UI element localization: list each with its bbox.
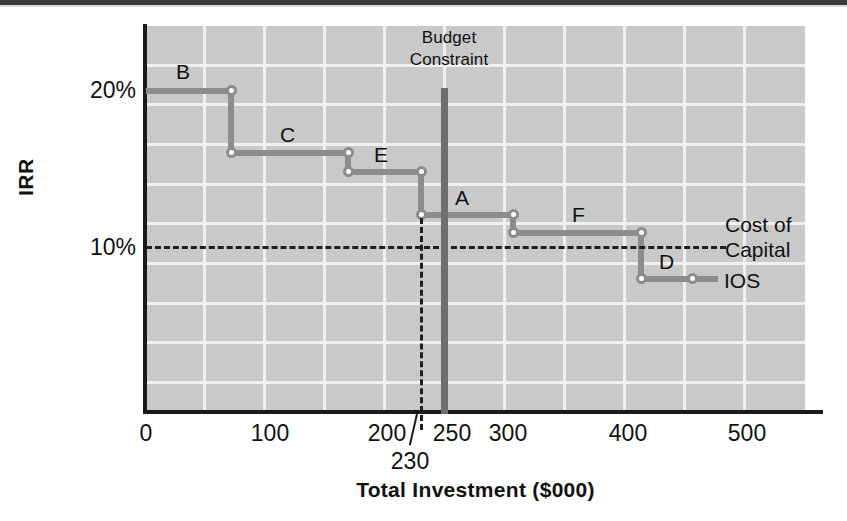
ios-step-segment-f xyxy=(510,230,644,236)
gridline-vertical xyxy=(263,26,266,412)
data-point-marker-d-start xyxy=(636,273,647,284)
x-tick-label-250: 250 xyxy=(422,420,482,447)
y-tick-label-20: 20% xyxy=(90,77,136,104)
budget-constraint-label-line2: Constraint xyxy=(385,49,513,71)
ios-step-segment-a xyxy=(418,212,516,218)
budget-230-dashed-line xyxy=(420,218,423,430)
ios-step-segment-e xyxy=(345,169,424,175)
project-label-f: F xyxy=(572,203,585,227)
x-axis-title: Total Investment ($000) xyxy=(146,478,805,502)
gridline-vertical xyxy=(323,26,326,412)
x-tick-label-400: 400 xyxy=(598,420,658,447)
data-point-marker-a-end xyxy=(508,209,519,220)
data-point-marker-c-start xyxy=(226,147,237,158)
project-label-d: D xyxy=(659,250,674,274)
gridline-vertical xyxy=(683,26,686,412)
x-tick-label-300: 300 xyxy=(478,420,538,447)
x-tick-label-100: 100 xyxy=(240,420,300,447)
gridline-horizontal xyxy=(146,341,805,344)
y-tick-label-10: 10% xyxy=(90,234,136,261)
gridline-horizontal xyxy=(146,262,805,265)
ios-step-segment-d xyxy=(638,276,718,282)
gridline-vertical xyxy=(623,26,626,412)
investment-opportunity-schedule-chart: Budget Constraint Cost of Capital IOS B … xyxy=(0,0,847,521)
cost-of-capital-dashed-line xyxy=(146,246,726,249)
data-point-marker-d-end xyxy=(687,273,698,284)
budget-constraint-line xyxy=(441,88,448,414)
gridline-horizontal xyxy=(146,103,805,106)
gridline-vertical xyxy=(563,26,566,412)
cost-of-capital-label-line1: Cost of xyxy=(725,212,792,237)
ios-step-segment-c xyxy=(228,150,350,156)
project-label-b: B xyxy=(176,60,190,84)
data-point-marker-f-start xyxy=(508,227,519,238)
project-label-c: C xyxy=(280,123,295,147)
gridline-vertical xyxy=(503,26,506,412)
gridline-horizontal xyxy=(146,381,805,384)
gridline-horizontal xyxy=(146,183,805,186)
x-axis-line xyxy=(143,410,823,414)
ios-step-segment-b xyxy=(146,88,231,94)
budget-constraint-label: Budget Constraint xyxy=(385,27,513,71)
x-tick-label-200: 200 xyxy=(357,420,417,447)
project-label-e: E xyxy=(374,143,388,167)
cost-of-capital-label: Cost of Capital xyxy=(725,212,792,262)
x-tick-label-0: 0 xyxy=(126,420,166,447)
x-tick-label-230: 230 xyxy=(380,448,440,475)
ios-step-drop-b-to-c xyxy=(228,88,234,155)
gridline-vertical xyxy=(383,26,386,412)
project-label-a: A xyxy=(455,186,469,210)
y-axis-line xyxy=(143,24,147,414)
gridline-horizontal xyxy=(146,222,805,225)
gridline-vertical xyxy=(203,26,206,412)
x-tick-label-500: 500 xyxy=(717,420,777,447)
data-point-marker-e-end xyxy=(416,166,427,177)
ios-series-label: IOS xyxy=(724,268,760,293)
gridline-horizontal xyxy=(146,302,805,305)
cost-of-capital-label-line2: Capital xyxy=(725,237,792,262)
data-point-marker-f-end xyxy=(636,227,647,238)
y-axis-title: IRR xyxy=(14,158,38,196)
plot-area xyxy=(146,26,805,412)
budget-constraint-label-line1: Budget xyxy=(385,27,513,49)
data-point-marker-e-start xyxy=(343,166,354,177)
data-point-marker-b-end xyxy=(226,85,237,96)
gridline-horizontal xyxy=(146,143,805,146)
data-point-marker-c-end xyxy=(343,147,354,158)
